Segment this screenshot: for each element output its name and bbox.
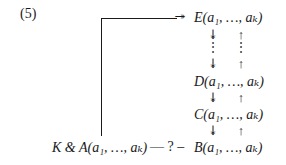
node-D: D(a₁, …, aₖ) [194,73,264,90]
node-E: E(a₁, …, aₖ) [194,9,262,26]
node-C: C(a₁, …, aₖ) [194,106,263,123]
up-arrow-icon: ↑ [235,123,247,139]
vertical-dots-icon: ⋮ [235,44,247,51]
equation-number: (5) [20,6,36,22]
connector-vertical-line [101,18,102,136]
down-arrow-icon: ↡ [207,56,219,72]
connector-horizontal-line [101,18,177,19]
down-arrow-icon: ↡ [207,123,219,139]
down-arrow-icon: ↡ [207,90,219,106]
node-B: B(a₁, …, aₖ) [194,139,262,156]
relation-label: — ? – [150,139,184,155]
node-K-and-A: K & A(a₁, …, aₖ) [52,139,147,156]
up-arrow-icon: ↑ [235,56,247,72]
vertical-dots-icon: ⋮ [207,44,219,51]
up-arrow-icon: ↑ [235,90,247,106]
double-head-arrow-icon: ↠ [174,9,186,25]
